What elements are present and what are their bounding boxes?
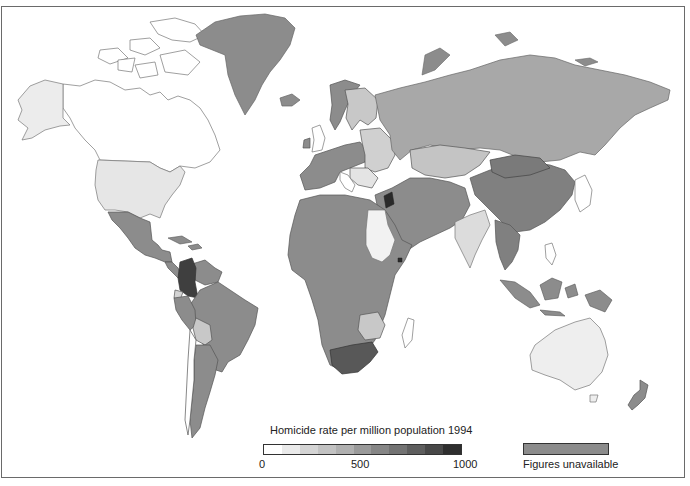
region-russia — [375, 55, 670, 162]
region-uk — [312, 125, 325, 152]
region-japan — [575, 175, 592, 212]
legend-swatch-5 — [354, 445, 372, 454]
region-ireland — [303, 138, 310, 148]
legend-swatch-1 — [282, 445, 300, 454]
legend-tick-min: 0 — [259, 458, 265, 470]
region-caribbean — [168, 236, 202, 250]
region-mexico — [108, 212, 172, 262]
region-alaska — [18, 80, 70, 140]
region-djibouti — [398, 258, 402, 262]
legend-unavailable-label: Figures unavailable — [523, 458, 618, 470]
legend-swatch-9 — [425, 445, 443, 454]
region-australia — [530, 318, 608, 390]
legend-unavailable-swatch — [523, 443, 609, 455]
legend-swatch-3 — [318, 445, 336, 454]
legend-swatch-0 — [264, 445, 282, 454]
region-kazakhstan — [410, 145, 490, 178]
region-tasmania — [590, 395, 598, 402]
legend-swatch-8 — [407, 445, 425, 454]
legend-title: Homicide rate per million population 199… — [270, 424, 472, 436]
legend-swatch-4 — [336, 445, 354, 454]
region-venezuela — [192, 260, 222, 285]
region-canada-islands — [98, 18, 205, 78]
region-canada — [63, 80, 220, 172]
region-philippines — [545, 243, 556, 265]
legend-swatch-10 — [443, 445, 461, 454]
legend-swatch-6 — [371, 445, 389, 454]
region-iceland — [280, 94, 300, 106]
legend-color-scale — [263, 444, 462, 455]
world-map — [0, 0, 690, 486]
legend-tick-mid: 500 — [351, 458, 369, 470]
legend-swatch-2 — [300, 445, 318, 454]
legend-tick-max: 1000 — [453, 458, 477, 470]
region-indonesia — [500, 278, 612, 316]
region-madagascar — [402, 318, 414, 348]
legend-swatch-7 — [389, 445, 407, 454]
region-sweden-finland — [345, 88, 378, 130]
region-new-zealand — [628, 380, 648, 410]
